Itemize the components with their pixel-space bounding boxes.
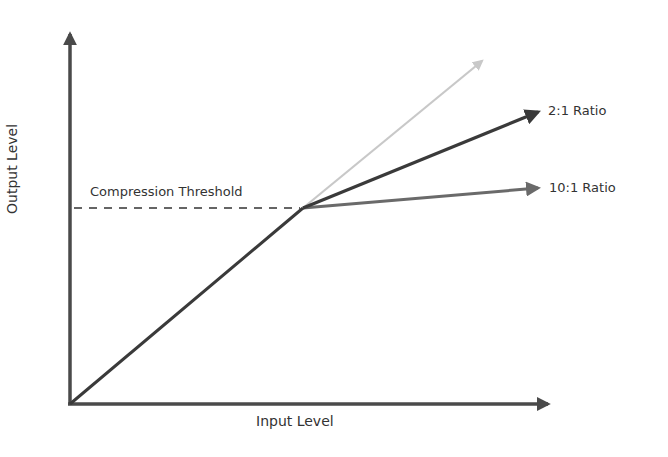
linear-segment (70, 208, 303, 404)
ratio-10-1-label: 10:1 Ratio (549, 180, 616, 195)
uncompressed-line (303, 61, 482, 208)
y-axis-label: Output Level (4, 124, 20, 214)
ratio-10-1-line (303, 188, 538, 208)
threshold-label: Compression Threshold (90, 184, 243, 199)
ratio-2-1-label: 2:1 Ratio (548, 103, 606, 118)
x-axis-label: Input Level (256, 413, 334, 429)
compression-diagram (0, 0, 668, 457)
ratio-2-1-line (303, 112, 538, 208)
